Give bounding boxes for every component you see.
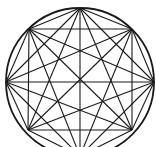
k8-circle-diagram: [0, 0, 156, 147]
chord-line: [29, 29, 80, 147]
chord-line: [28, 130, 80, 147]
chord-line: [6, 8, 80, 82]
chord-line: [80, 130, 132, 147]
diagram-canvas: [0, 0, 156, 147]
chord-line: [80, 8, 154, 82]
chord-line: [28, 29, 29, 130]
